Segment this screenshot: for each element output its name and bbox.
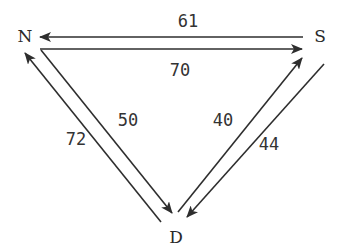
edge-weight-label: 61	[178, 11, 198, 31]
edge-n-to-s: 70	[40, 49, 302, 80]
edge-n-to-d: 50	[41, 50, 172, 213]
edge-weight-label: 70	[170, 60, 190, 80]
edge-weight-label: 44	[259, 134, 279, 154]
edge-s-to-n: 61	[40, 11, 303, 37]
edge-d-to-s: 40	[178, 58, 302, 212]
edge-weight-label: 40	[213, 110, 233, 130]
flow-diagram: 617072504044 NSD	[0, 0, 342, 250]
nodes: NSD	[18, 26, 326, 247]
node-d: D	[169, 227, 183, 247]
arrow-line	[41, 50, 172, 213]
node-s: S	[314, 26, 326, 46]
edge-weight-label: 72	[66, 129, 86, 149]
arrow-line	[25, 53, 161, 222]
node-n: N	[18, 26, 33, 46]
edge-s-to-d: 44	[187, 64, 324, 217]
edges: 617072504044	[25, 11, 324, 222]
arrow-line	[187, 64, 324, 217]
edge-weight-label: 50	[118, 110, 138, 130]
arrow-line	[178, 58, 302, 212]
edge-d-to-n: 72	[25, 53, 161, 222]
